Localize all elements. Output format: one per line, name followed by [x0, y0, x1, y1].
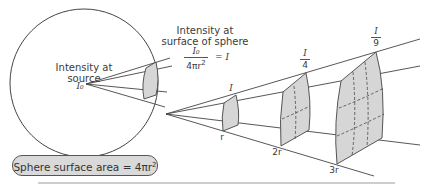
- patch-r: [222, 95, 238, 131]
- patch-r-distance: r: [217, 132, 227, 143]
- patch-2r-distance: 2r: [269, 147, 285, 158]
- patch-3r-intensity: I 9: [371, 27, 381, 48]
- equals-I: = I: [210, 52, 234, 63]
- surface-intensity-fraction: I₀ 4πr2: [184, 47, 208, 71]
- sphere-surface-area-label: Sphere surface area = 4πr2: [12, 155, 158, 176]
- fraction-numerator: I₀: [184, 47, 208, 58]
- inverse-square-law-diagram: Intensity at source I₀ Intensity at surf…: [0, 0, 432, 191]
- patch-3r-distance: 3r: [326, 165, 342, 176]
- surface-intensity-line1: Intensity at: [160, 25, 250, 36]
- source-symbol: I₀: [74, 81, 86, 92]
- patch-2r: [280, 73, 310, 146]
- source-label-line1: Intensity at: [54, 62, 114, 73]
- patch-2r-intensity: I 4: [300, 49, 310, 70]
- patch-3r: [336, 52, 384, 164]
- fraction-denominator: 4πr: [186, 61, 201, 71]
- fraction-denominator-exponent: 2: [201, 59, 205, 67]
- patch-r-intensity: I: [226, 83, 236, 94]
- surface-intensity-line2: surface of sphere: [153, 36, 257, 47]
- sphere-surface-patch: [143, 62, 158, 99]
